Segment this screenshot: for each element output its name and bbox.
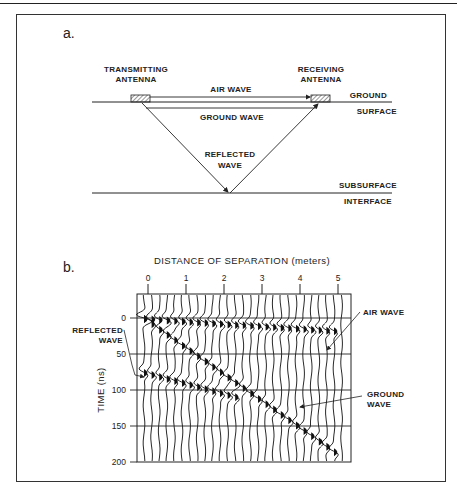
- svg-text:150: 150: [112, 421, 126, 431]
- svg-text:200: 200: [112, 457, 126, 467]
- svg-text:3: 3: [260, 273, 265, 283]
- svg-text:WAVE: WAVE: [367, 400, 392, 409]
- svg-text:4: 4: [298, 273, 303, 283]
- x-axis-ticks: 0 1 2 3 4 5: [146, 273, 341, 294]
- svg-text:TRANSMITTING: TRANSMITTING: [104, 65, 168, 74]
- transmitter-label: TRANSMITTING ANTENNA: [104, 65, 168, 84]
- ground-wave-annotation: GROUND WAVE: [367, 390, 404, 409]
- svg-text:REFLECTED: REFLECTED: [205, 150, 256, 159]
- ground-surface-label: GROUND SURFACE: [350, 91, 398, 116]
- air-wave-annotation: AIR WAVE: [363, 308, 405, 317]
- ground-wave-label: GROUND WAVE: [200, 113, 264, 122]
- svg-text:2: 2: [222, 273, 227, 283]
- svg-text:1: 1: [184, 273, 189, 283]
- svg-text:GROUND: GROUND: [367, 390, 404, 399]
- svg-text:ANTENNA: ANTENNA: [115, 75, 156, 84]
- svg-text:0: 0: [121, 313, 126, 323]
- figure-canvas: a. TRANSMITTING ANTENNA RECEIVING ANTENN…: [0, 0, 457, 491]
- y-axis-title: TIME (ns): [95, 367, 106, 412]
- transmitting-antenna: [131, 95, 150, 102]
- svg-text:50: 50: [117, 349, 127, 359]
- x-axis-title: DISTANCE OF SEPARATION (meters): [154, 255, 330, 266]
- reflected-wave-label: REFLECTED WAVE: [205, 150, 256, 170]
- svg-text:WAVE: WAVE: [218, 161, 243, 170]
- svg-text:ANTENNA: ANTENNA: [300, 75, 341, 84]
- svg-text:5: 5: [336, 273, 341, 283]
- svg-text:100: 100: [112, 385, 126, 395]
- panel-b-label: b.: [63, 259, 75, 275]
- svg-text:RECEIVING: RECEIVING: [298, 65, 345, 74]
- panel-a-label: a.: [63, 25, 75, 41]
- svg-text:0: 0: [146, 273, 151, 283]
- svg-text:REFLECTED: REFLECTED: [72, 326, 123, 335]
- svg-text:SURFACE: SURFACE: [357, 107, 398, 116]
- receiver-label: RECEIVING ANTENNA: [298, 65, 345, 84]
- receiving-antenna: [311, 95, 330, 102]
- reflected-wave-annotation: REFLECTED WAVE: [72, 326, 123, 345]
- svg-text:WAVE: WAVE: [99, 336, 124, 345]
- svg-text:INTERFACE: INTERFACE: [344, 197, 392, 206]
- svg-text:SUBSURFACE: SUBSURFACE: [339, 181, 397, 190]
- air-wave-label: AIR WAVE: [210, 85, 252, 94]
- svg-text:GROUND: GROUND: [350, 91, 387, 100]
